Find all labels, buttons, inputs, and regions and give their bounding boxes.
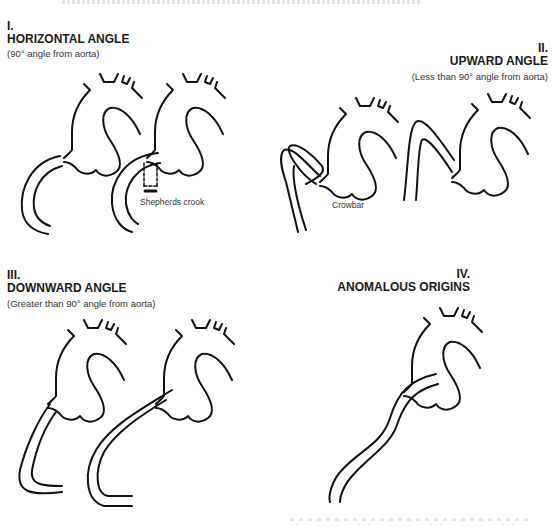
panel-3-aorta-left — [48, 320, 126, 422]
panel-1-catheter-left-inner — [34, 166, 62, 226]
shepherds-crook-label: Shepherds crook — [140, 197, 205, 207]
crowbar-label: Crowbar — [332, 200, 364, 210]
panel-1-catheter-right-inner — [126, 163, 160, 224]
panel-1-aorta-left — [64, 74, 142, 176]
panel-2-catheter-left-outer — [281, 149, 320, 232]
panel-3-aorta-right — [156, 320, 234, 422]
panel-1-aorta-right — [147, 74, 225, 176]
panel-3-catheter-left-outer — [19, 404, 62, 493]
panel-2-aorta-left — [320, 98, 398, 200]
panel-2-catheter-right-outer — [404, 121, 454, 200]
panel-1-catheter-left — [22, 156, 60, 234]
panel-2-aorta-right — [452, 94, 530, 196]
truncated-footer-text — [290, 518, 530, 521]
panel-4-catheter-outer — [330, 374, 437, 502]
panel-3-catheter-left-inner — [32, 412, 62, 486]
panel-4-catheter-inner — [340, 384, 438, 502]
diagram-canvas: Shepherds crook Crowbar — [0, 0, 555, 526]
